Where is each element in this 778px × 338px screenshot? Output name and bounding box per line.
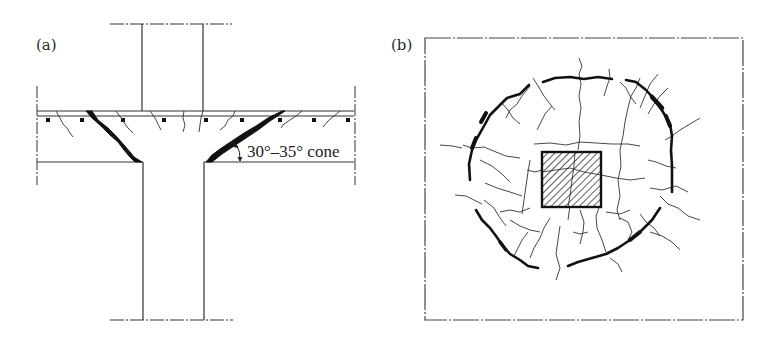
panel-a-label: (a) xyxy=(36,36,57,54)
column-hatched xyxy=(542,152,601,207)
slab-break-lines xyxy=(37,86,355,185)
panel-b-label: (b) xyxy=(391,36,412,54)
panel-a: (a) xyxy=(36,24,355,320)
cone-angle-label: 30°–35° cone xyxy=(247,142,339,161)
figure-canvas: (a) xyxy=(0,0,778,338)
reinforcement-bars xyxy=(46,118,350,122)
upper-column xyxy=(142,24,203,111)
cone-angle-marker xyxy=(233,144,242,161)
lower-column xyxy=(143,162,204,320)
panel-b: (b) xyxy=(391,36,743,320)
